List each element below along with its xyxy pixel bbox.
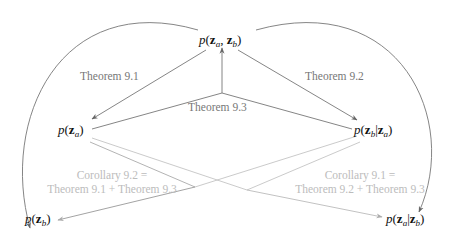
node-conditional-a-given-b: p(za|zb) xyxy=(386,211,424,228)
arc-left-joint-to-marginal-b xyxy=(22,23,198,228)
label-theorem-9-3: Theorem 9.3 xyxy=(188,101,247,113)
paren-close: ) xyxy=(46,211,50,226)
node-joint: p(za, zb) xyxy=(199,32,241,49)
node-marginal-b: p(zb) xyxy=(25,211,50,228)
corollary-9-1-line2: Theorem 9.2 + Theorem 9.3 xyxy=(280,182,440,196)
label-theorem-9-2: Theorem 9.2 xyxy=(305,70,364,82)
paren-close: ) xyxy=(237,32,241,47)
corollary-9-1-line1: Corollary 9.1 = xyxy=(280,168,440,182)
label-corollary-9-1: Corollary 9.1 = Theorem 9.2 + Theorem 9.… xyxy=(280,168,440,196)
paren-close: ) xyxy=(420,211,424,226)
label-corollary-9-2: Corollary 9.2 = Theorem 9.1 + Theorem 9.… xyxy=(32,168,192,196)
paren-close: ) xyxy=(79,122,83,137)
edge-theorem-9-2 xyxy=(238,50,357,120)
node-marginal-a: p(za) xyxy=(58,122,83,139)
corollary-9-2-line2: Theorem 9.1 + Theorem 9.3 xyxy=(32,182,192,196)
corollary-9-2-line1: Corollary 9.2 = xyxy=(32,168,192,182)
node-conditional-b-given-a: p(zb|za) xyxy=(354,122,392,139)
paren-close: ) xyxy=(388,122,392,137)
label-theorem-9-1: Theorem 9.1 xyxy=(80,70,139,82)
